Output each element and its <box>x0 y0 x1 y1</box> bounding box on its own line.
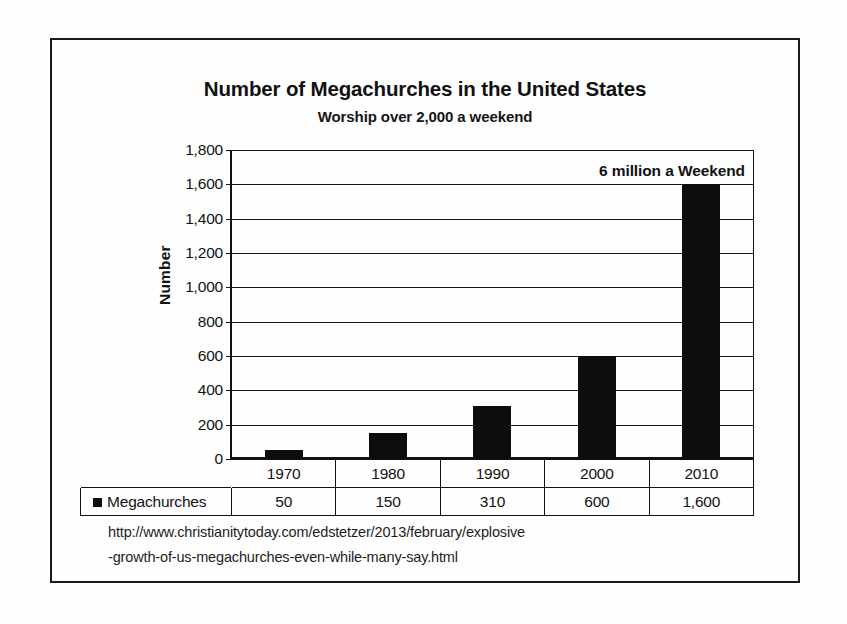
y-tick-1800: 1,800 <box>185 141 223 159</box>
table-cell-2000: 600 <box>545 488 649 516</box>
figure-frame: Number of Megachurches in the United Sta… <box>50 38 800 583</box>
source-url-line-1: http://www.christianitytoday.com/edstetz… <box>108 520 748 545</box>
table-cell-1990: 310 <box>440 488 544 516</box>
y-tick-1000: 1,000 <box>185 278 223 296</box>
y-tick-400: 400 <box>198 381 223 399</box>
bar-column-1980 <box>336 150 440 459</box>
bar-1980[interactable] <box>369 433 407 459</box>
table-header-1990: 1990 <box>440 460 544 488</box>
bar-2010[interactable] <box>682 184 720 459</box>
table-header-2000: 2000 <box>545 460 649 488</box>
source-url: http://www.christianitytoday.com/edstetz… <box>108 520 748 570</box>
y-tick-1200: 1,200 <box>185 244 223 262</box>
table-cell-1970: 50 <box>232 488 336 516</box>
legend-swatch-icon <box>93 498 102 507</box>
y-tick-200: 200 <box>198 416 223 434</box>
plot-area: 1,800 1,600 1,400 1,200 1,000 800 600 40… <box>230 150 754 459</box>
bar-column-1970 <box>232 150 336 459</box>
table-header-1970: 1970 <box>232 460 336 488</box>
source-url-line-2: -growth-of-us-megachurches-even-while-ma… <box>108 545 748 570</box>
y-axis-title: Number <box>156 245 174 305</box>
bar-column-2010 <box>649 150 753 459</box>
chart-subtitle: Worship over 2,000 a weekend <box>52 108 798 125</box>
y-tick-600: 600 <box>198 347 223 365</box>
table-cell-2010: 1,600 <box>649 488 753 516</box>
y-tick-1600: 1,600 <box>185 175 223 193</box>
table-header-1980: 1980 <box>336 460 440 488</box>
y-tick-1400: 1,400 <box>185 210 223 228</box>
bar-1970[interactable] <box>265 450 303 459</box>
bar-column-1990 <box>440 150 544 459</box>
legend-item-megachurches[interactable]: Megachurches <box>81 488 232 516</box>
data-table: 1970 1980 1990 2000 2010 Megachurches 50… <box>80 459 754 516</box>
bar-1990[interactable] <box>473 406 511 459</box>
table-header-2010: 2010 <box>649 460 753 488</box>
bar-2000[interactable] <box>578 356 616 459</box>
y-tick-800: 800 <box>198 313 223 331</box>
table-header-row: 1970 1980 1990 2000 2010 <box>81 460 754 488</box>
table-corner-cell <box>81 460 232 488</box>
page-title: Number of Megachurches in the United Sta… <box>52 77 798 101</box>
table-row: Megachurches 50 150 310 600 1,600 <box>81 488 754 516</box>
table-cell-1980: 150 <box>336 488 440 516</box>
legend-label: Megachurches <box>107 493 206 510</box>
bar-column-2000 <box>545 150 649 459</box>
